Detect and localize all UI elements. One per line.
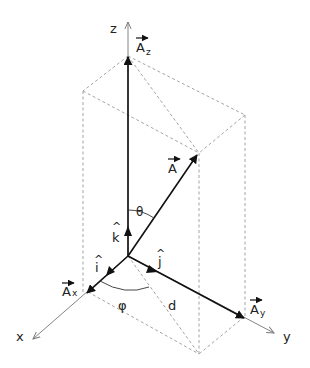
k-hat-label: k xyxy=(112,230,120,245)
x-axis-label: x xyxy=(16,329,24,344)
vectors xyxy=(87,57,244,318)
dashed-box xyxy=(83,56,245,354)
d-label: d xyxy=(168,298,176,313)
y-axis-label: y xyxy=(283,329,291,344)
az-label: A xyxy=(136,40,145,55)
phi-label: φ xyxy=(118,298,127,313)
ax-label: A xyxy=(62,284,71,299)
vector-ay xyxy=(128,256,244,318)
z-axis-label: z xyxy=(110,21,117,36)
i-hat-arrowhead xyxy=(106,266,115,276)
theta-label: θ xyxy=(136,205,143,219)
i-hat-label: i xyxy=(95,260,99,275)
az-subscript: z xyxy=(146,47,151,57)
j-hat-label: j xyxy=(157,254,162,269)
a-label: A xyxy=(168,161,177,176)
phi-arc xyxy=(100,281,149,290)
vector-diagram: z x y A z A A x A y ^ k ^ i ^ j θ φ d xyxy=(0,0,310,368)
labels: z x y A z A A x A y ^ k ^ i ^ j θ φ d xyxy=(16,21,291,344)
ay-subscript: y xyxy=(260,308,266,318)
ax-subscript: x xyxy=(72,288,78,298)
k-hat-arrowhead xyxy=(124,226,132,236)
diagram-svg: z x y A z A A x A y ^ k ^ i ^ j θ φ d xyxy=(0,0,310,368)
ay-label: A xyxy=(250,302,259,317)
